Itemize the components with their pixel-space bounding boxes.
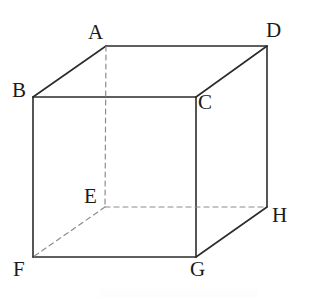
solid-edge-group: [33, 46, 267, 257]
vertex-label-a: A: [88, 22, 103, 43]
cube-diagram: ABCDEFGH: [0, 0, 310, 302]
vertex-label-h: H: [272, 205, 287, 226]
vertex-label-g: G: [190, 259, 205, 280]
vertex-label-f: F: [13, 259, 25, 280]
edge-AB: [33, 46, 106, 97]
vertex-label-d: D: [266, 20, 281, 41]
edge-AE: [105, 46, 106, 207]
vertex-label-e: E: [84, 186, 97, 207]
edge-EF: [33, 207, 105, 257]
vertex-label-b: B: [12, 80, 26, 101]
dashed-edge-group: [33, 46, 267, 257]
cube-wireframe-svg: [0, 0, 310, 302]
baseline-band: [100, 289, 258, 298]
vertex-label-c: C: [198, 92, 212, 113]
edge-GH: [196, 207, 267, 257]
